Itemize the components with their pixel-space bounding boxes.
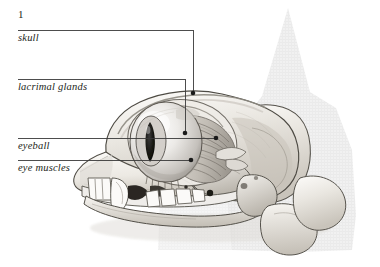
label-lacrimal-glands: lacrimal glands [18, 81, 87, 92]
leader-dot-lacrimal-glands [183, 131, 188, 136]
leader-dot-eye-muscles [189, 158, 194, 163]
label-eyeball: eyeball [18, 140, 50, 151]
leader-lines-group [0, 0, 380, 267]
leader-dot-skull [191, 91, 196, 96]
figure-canvas: 1 skull lacrimal glands eyeball eye musc… [0, 0, 380, 267]
figure-number-label: 1 [18, 8, 24, 20]
label-eye-muscles: eye muscles [18, 162, 70, 173]
leader-dot-eyeball [214, 136, 219, 141]
label-skull: skull [18, 32, 39, 43]
